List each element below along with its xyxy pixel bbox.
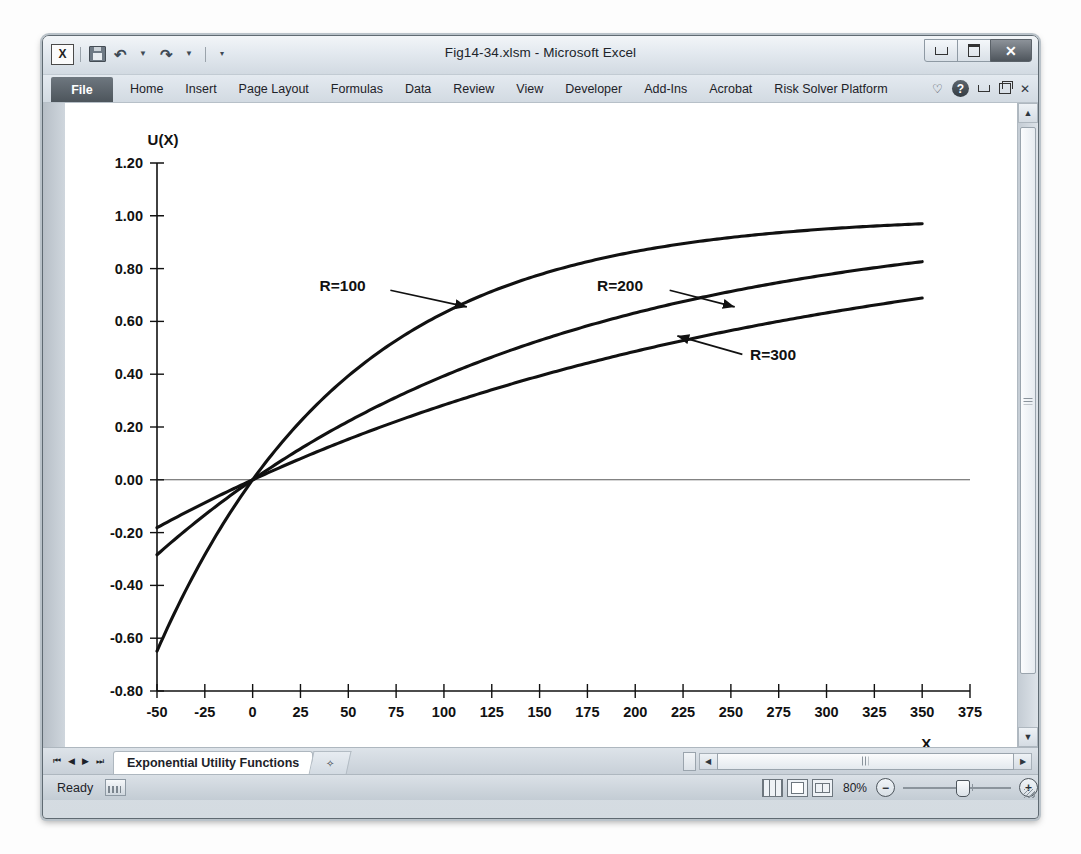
excel-window: X ↶ ▼ ↷ ▼ ▾ Fig14-34.xlsm - Microsoft Ex… [42,35,1039,819]
first-sheet-icon[interactable]: ⏮ [53,756,61,767]
help-icon[interactable]: ? [952,80,969,97]
window-controls: ✕ [925,39,1032,62]
insert-worksheet-icon[interactable]: ✧ [309,751,352,775]
svg-text:X: X [921,735,931,747]
tab-home[interactable]: Home [119,75,174,102]
svg-text:1.20: 1.20 [115,155,143,171]
tab-developer[interactable]: Developer [554,75,633,102]
scroll-thumb-grip [1024,397,1033,404]
svg-text:0.00: 0.00 [115,472,143,488]
svg-text:0: 0 [249,704,257,720]
tab-view[interactable]: View [505,75,554,102]
zoom-slider[interactable] [903,779,1011,796]
svg-text:U(X): U(X) [148,131,179,148]
collapse-ribbon-icon[interactable]: ♡ [932,82,943,96]
sheet-tab-bar: ⏮ ◀ ▶ ⏭ Exponential Utility Functions ✧ … [43,747,1038,774]
chart-svg: -0.80-0.60-0.40-0.200.000.200.400.600.80… [65,103,1018,747]
tab-risk-solver-platform[interactable]: Risk Solver Platform [763,75,898,102]
svg-text:100: 100 [432,704,456,720]
new-sheet-glyph: ✧ [326,758,334,769]
svg-text:-50: -50 [147,704,168,720]
last-sheet-icon[interactable]: ⏭ [96,756,104,767]
svg-text:225: 225 [671,704,695,720]
ribbon-right-controls: ♡ ? ✕ [932,75,1032,102]
svg-text:-0.20: -0.20 [110,525,143,541]
svg-text:-0.80: -0.80 [110,683,143,699]
svg-text:0.20: 0.20 [115,419,143,435]
tab-page-layout[interactable]: Page Layout [228,75,320,102]
sheet-tab-exponential-utility-functions[interactable]: Exponential Utility Functions [113,751,313,775]
horizontal-scroll-thumb[interactable] [717,753,1014,770]
status-text: Ready [43,781,105,795]
tab-file[interactable]: File [51,77,113,102]
zoom-level-label[interactable]: 80% [843,781,867,795]
tab-bar-filler [349,748,682,774]
svg-text:25: 25 [292,704,308,720]
sheet-nav-buttons: ⏮ ◀ ▶ ⏭ [43,756,113,767]
close-button[interactable]: ✕ [990,39,1032,62]
svg-text:200: 200 [623,704,647,720]
svg-text:R=200: R=200 [597,277,643,294]
screenshot-root: X ↶ ▼ ↷ ▼ ▾ Fig14-34.xlsm - Microsoft Ex… [0,0,1081,854]
tab-review[interactable]: Review [442,75,505,102]
zoom-slider-midpoint-tick [972,784,973,791]
svg-text:350: 350 [910,704,934,720]
horizontal-scrollbar[interactable]: ◀ ▶ [699,753,1032,770]
svg-text:125: 125 [480,704,504,720]
scroll-left-icon[interactable]: ◀ [699,753,718,770]
svg-text:50: 50 [340,704,356,720]
svg-text:275: 275 [767,704,791,720]
ribbon-tabs: Home Insert Page Layout Formulas Data Re… [119,75,899,102]
zoom-out-button[interactable]: − [876,778,895,797]
exponential-utility-chart[interactable]: -0.80-0.60-0.40-0.200.000.200.400.600.80… [65,103,1018,747]
minimize-workbook-icon[interactable] [978,85,990,92]
svg-text:0.80: 0.80 [115,261,143,277]
page-break-view-icon[interactable] [812,779,833,797]
svg-text:-25: -25 [194,704,215,720]
workbook-body: -0.80-0.60-0.40-0.200.000.200.400.600.80… [43,103,1038,747]
normal-view-icon[interactable] [762,779,783,797]
svg-text:1.00: 1.00 [115,208,143,224]
status-bar: Ready 80% − + [43,774,1038,800]
scroll-down-icon[interactable]: ▼ [1018,727,1038,747]
zoom-slider-thumb[interactable] [956,780,970,797]
tab-add-ins[interactable]: Add-Ins [633,75,698,102]
svg-text:0.60: 0.60 [115,313,143,329]
svg-text:-0.40: -0.40 [110,577,143,593]
worksheet-canvas[interactable]: -0.80-0.60-0.40-0.200.000.200.400.600.80… [65,103,1018,747]
svg-text:375: 375 [958,704,982,720]
h-scroll-thumb-grip [862,757,869,766]
svg-text:75: 75 [388,704,404,720]
prev-sheet-icon[interactable]: ◀ [68,756,75,766]
svg-text:250: 250 [719,704,743,720]
tab-insert[interactable]: Insert [174,75,227,102]
window-title: Fig14-34.xlsm - Microsoft Excel [43,45,1038,60]
ribbon-tab-bar: File Home Insert Page Layout Formulas Da… [43,75,1038,103]
tab-formulas[interactable]: Formulas [320,75,394,102]
svg-text:325: 325 [862,704,886,720]
svg-text:150: 150 [527,704,551,720]
scroll-up-icon[interactable]: ▲ [1018,103,1038,123]
maximize-button[interactable] [957,39,991,62]
tab-data[interactable]: Data [394,75,442,102]
svg-text:R=100: R=100 [320,277,366,294]
svg-text:0.40: 0.40 [115,366,143,382]
next-sheet-icon[interactable]: ▶ [82,756,89,766]
minimize-button[interactable] [924,39,958,62]
restore-workbook-icon[interactable] [999,83,1011,94]
tab-split-handle[interactable] [683,752,696,771]
title-bar: X ↶ ▼ ↷ ▼ ▾ Fig14-34.xlsm - Microsoft Ex… [43,36,1038,75]
svg-text:R=300: R=300 [750,346,796,363]
svg-text:175: 175 [575,704,599,720]
vertical-scrollbar[interactable]: ▲ ▼ [1017,103,1038,747]
svg-text:-0.60: -0.60 [110,630,143,646]
macro-record-icon[interactable] [105,779,126,796]
resize-grip[interactable] [1024,789,1035,798]
close-workbook-icon[interactable]: ✕ [1020,82,1030,96]
view-buttons [762,779,833,797]
svg-text:300: 300 [814,704,838,720]
page-layout-view-icon[interactable] [787,779,808,797]
vertical-scroll-thumb[interactable] [1020,127,1036,674]
tab-acrobat[interactable]: Acrobat [698,75,763,102]
scroll-right-icon[interactable]: ▶ [1013,753,1032,770]
